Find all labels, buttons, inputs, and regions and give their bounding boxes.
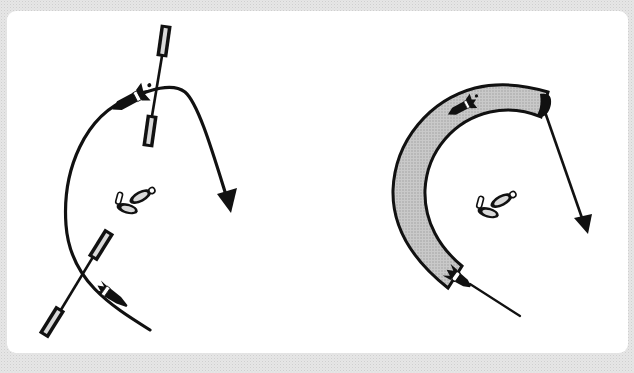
right-illustration (393, 85, 592, 316)
direction-arrow-shaft (545, 112, 582, 218)
wire-tail (470, 284, 520, 316)
left-illustration (39, 24, 237, 338)
curved-sheath (393, 85, 548, 288)
center-figure-icon (113, 184, 157, 216)
direction-arrow-icon (217, 188, 237, 213)
center-figure-icon (474, 188, 518, 220)
diagram-canvas (0, 0, 634, 373)
upper-connector-icon (108, 79, 158, 118)
direction-arrow-icon (574, 214, 592, 234)
